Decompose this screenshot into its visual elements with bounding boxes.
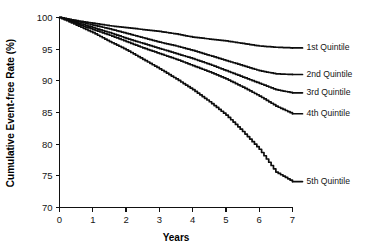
series-label-3: 3rd Quintile	[307, 87, 351, 97]
chart-background	[0, 0, 375, 249]
x-tick-label: 3	[157, 214, 162, 225]
chart-figure: Cumulative Event-free Rate (%) 707580859…	[0, 0, 375, 249]
y-tick-label: 70	[42, 202, 53, 213]
y-tick-label: 95	[42, 44, 53, 55]
x-tick-label: 1	[90, 214, 95, 225]
x-tick-label: 6	[257, 214, 262, 225]
x-tick-label: 7	[290, 214, 295, 225]
x-tick-label: 5	[223, 214, 228, 225]
y-axis-title: Cumulative Event-free Rate (%)	[5, 39, 16, 187]
x-axis-title-text: Years	[163, 232, 190, 243]
series-label-1: 1st Quintile	[307, 42, 350, 52]
series-label-2: 2nd Quintile	[307, 69, 353, 79]
y-tick-label: 80	[42, 139, 53, 150]
x-tick-label: 4	[190, 214, 195, 225]
y-tick-label: 100	[37, 12, 53, 23]
x-tick-label: 0	[57, 214, 62, 225]
x-tick-label: 2	[123, 214, 128, 225]
series-label-4: 4th Quintile	[307, 108, 351, 118]
survival-curve-chart: Cumulative Event-free Rate (%) 707580859…	[0, 0, 375, 249]
y-tick-label: 90	[42, 75, 53, 86]
y-tick-label: 75	[42, 170, 53, 181]
y-axis-title-text: Cumulative Event-free Rate (%)	[5, 39, 16, 187]
y-tick-label: 85	[42, 107, 53, 118]
series-label-5: 5th Quintile	[307, 176, 351, 186]
